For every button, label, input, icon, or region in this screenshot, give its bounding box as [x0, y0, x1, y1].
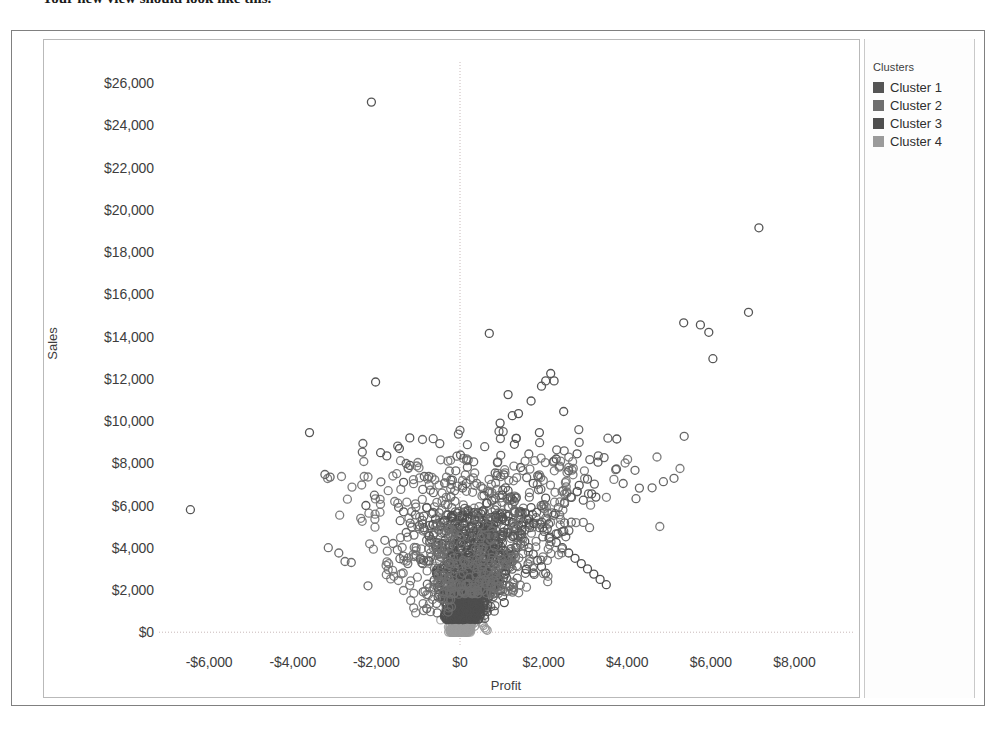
legend-item-2[interactable]: Cluster 2 — [873, 97, 973, 114]
y-axis-tick-label: $22,000 — [104, 160, 154, 176]
scatter-svg — [159, 62, 853, 647]
scatter-point — [547, 481, 555, 489]
scatter-point — [423, 504, 431, 512]
legend-item-label: Cluster 2 — [890, 98, 942, 113]
legend-swatch-icon — [873, 82, 884, 93]
scatter-point — [659, 478, 667, 486]
scatter-point — [394, 442, 402, 450]
x-axis-tick-label: $4,000 — [606, 654, 648, 670]
scatter-point — [709, 355, 717, 363]
scatter-point — [324, 544, 332, 552]
legend-item-label: Cluster 1 — [890, 80, 942, 95]
scatter-point — [485, 329, 493, 337]
x-axis-tick-label: $2,000 — [523, 654, 565, 670]
scatter-point — [560, 447, 568, 455]
y-axis-tick-label: $2,000 — [112, 582, 154, 598]
scatter-plot-panel[interactable]: $0$2,000$4,000$6,000$8,000$10,000$12,000… — [43, 39, 860, 698]
scatter-point — [648, 484, 656, 492]
scatter-point — [504, 391, 512, 399]
scatter-point — [535, 429, 543, 437]
scatter-point — [436, 440, 444, 448]
scatter-point — [412, 609, 420, 617]
scatter-point — [497, 451, 505, 459]
y-axis-tick-label: $16,000 — [104, 286, 154, 302]
legend-item-label: Cluster 3 — [890, 116, 942, 131]
scatter-point — [415, 464, 423, 472]
scatter-point — [538, 382, 546, 390]
scatter-point — [377, 500, 385, 508]
scatter-point — [383, 452, 391, 460]
scatter-point — [358, 448, 366, 456]
figure-frame: $0$2,000$4,000$6,000$8,000$10,000$12,000… — [11, 30, 985, 706]
scatter-point — [463, 441, 471, 449]
scatter-point — [364, 582, 372, 590]
legend-items: Cluster 1Cluster 2Cluster 3Cluster 4 — [873, 79, 973, 150]
scatter-point — [745, 308, 753, 316]
x-axis-tick-label: -$2,000 — [353, 654, 400, 670]
y-axis-tick-label: $20,000 — [104, 202, 154, 218]
scatter-point — [376, 508, 384, 516]
y-axis-tick-label: $10,000 — [104, 413, 154, 429]
x-axis-tick-label: $8,000 — [773, 654, 815, 670]
scatter-point — [550, 377, 558, 385]
scatter-point — [632, 495, 640, 503]
scatter-point — [580, 467, 588, 475]
scatter-point — [372, 378, 380, 386]
scatter-point — [696, 321, 704, 329]
scatter-point — [676, 465, 684, 473]
scatter-point — [348, 483, 356, 491]
scatter-point — [383, 547, 391, 555]
scatter-point — [619, 480, 627, 488]
scatter-point — [586, 524, 594, 532]
scatter-point — [610, 475, 618, 483]
scatter-point — [418, 495, 426, 503]
legend-item-4[interactable]: Cluster 4 — [873, 133, 973, 150]
scatter-point — [377, 478, 385, 486]
legend-title: Clusters — [873, 61, 973, 73]
scatter-point — [590, 480, 598, 488]
scatter-point — [400, 587, 408, 595]
scatter-point — [396, 517, 404, 525]
y-axis-tick-label: $6,000 — [112, 498, 154, 514]
scatter-point — [338, 473, 346, 481]
scatter-point — [586, 456, 594, 464]
scatter-point — [553, 446, 561, 454]
scatter-point — [360, 458, 368, 466]
scatter-point — [602, 581, 610, 589]
scatter-point — [656, 523, 664, 531]
scatter-point — [523, 474, 531, 482]
y-axis-tick-label: $12,000 — [104, 371, 154, 387]
scatter-point — [403, 498, 411, 506]
legend-swatch-icon — [873, 100, 884, 111]
scatter-point — [397, 485, 405, 493]
scatter-point — [358, 481, 366, 489]
scatter-point — [527, 397, 535, 405]
scatter-point — [186, 506, 194, 514]
figure-caption-text: Your new view should look like this. — [42, 0, 402, 5]
y-axis-tick-labels: $0$2,000$4,000$6,000$8,000$10,000$12,000… — [44, 62, 154, 647]
y-axis-tick-label: $0 — [139, 624, 154, 640]
scatter-point — [481, 443, 489, 451]
scatter-point — [653, 453, 661, 461]
scatter-point — [575, 426, 583, 434]
legend-item-3[interactable]: Cluster 3 — [873, 115, 973, 132]
y-axis-title: Sales — [45, 327, 60, 360]
plot-area[interactable] — [159, 62, 853, 647]
legend-inner: Clusters Cluster 1Cluster 2Cluster 3Clus… — [873, 61, 973, 151]
legend-panel[interactable]: Clusters Cluster 1Cluster 2Cluster 3Clus… — [864, 39, 975, 698]
legend-item-1[interactable]: Cluster 1 — [873, 79, 973, 96]
scatter-point — [631, 466, 639, 474]
scatter-point — [575, 438, 583, 446]
scatter-point — [385, 560, 393, 568]
scatter-point — [306, 429, 314, 437]
scatter-point — [587, 501, 595, 509]
scatter-point — [680, 319, 688, 327]
x-axis-tick-label: $6,000 — [690, 654, 732, 670]
x-axis-title: Profit — [159, 678, 853, 693]
scatter-point — [371, 523, 379, 531]
x-axis-tick-label: -$4,000 — [269, 654, 316, 670]
y-axis-tick-label: $24,000 — [104, 117, 154, 133]
scatter-point — [393, 546, 401, 554]
scatter-point — [536, 439, 544, 447]
scatter-point — [336, 511, 344, 519]
